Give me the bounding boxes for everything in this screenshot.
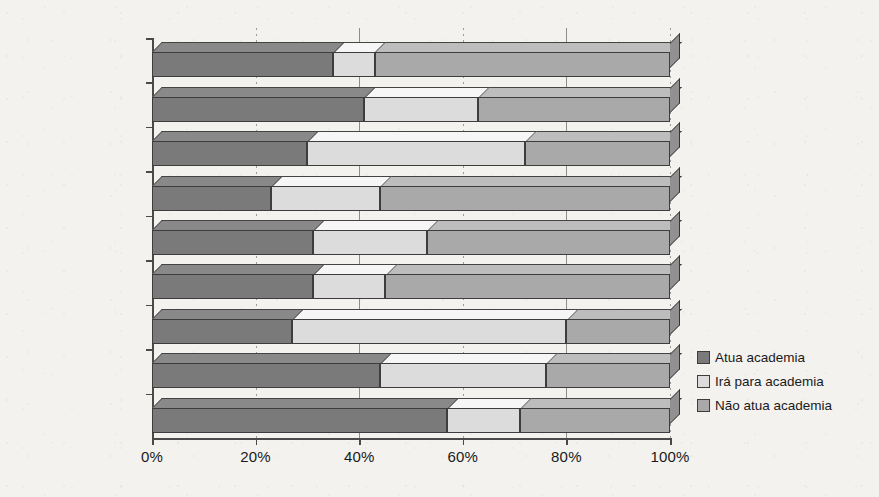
y-axis-tick xyxy=(146,394,153,396)
plot-area: AdministraçãoAgronomiaBioquímicaClínica … xyxy=(152,38,670,438)
bar-segment-top-face xyxy=(152,220,325,230)
bar-segment[interactable] xyxy=(364,97,478,122)
bar-segment-side-face xyxy=(670,122,680,157)
bar-segment-top-face xyxy=(427,220,682,230)
bar-segment[interactable] xyxy=(152,408,447,433)
x-axis-tick xyxy=(566,438,568,445)
bar-segment[interactable] xyxy=(152,141,307,166)
y-axis-tick xyxy=(146,171,153,173)
legend-item[interactable]: Não atua academia xyxy=(697,398,832,413)
legend-label: Irá para academia xyxy=(715,374,824,389)
bar-segment-top-face xyxy=(152,309,304,319)
bar-segment-top-face xyxy=(271,176,392,186)
legend-swatch xyxy=(697,375,710,388)
bar-segment[interactable] xyxy=(152,319,292,344)
bar-segment[interactable] xyxy=(152,274,313,299)
bar-segment-top-face xyxy=(380,176,682,186)
bar-segment-side-face xyxy=(670,78,680,113)
bar-segment-top-face xyxy=(447,398,532,408)
x-axis-tick xyxy=(152,438,154,445)
bar-segment-top-face xyxy=(364,87,490,97)
y-axis-tick xyxy=(146,349,153,351)
bar-segment-side-face xyxy=(670,33,680,68)
x-axis-tick xyxy=(359,438,361,445)
bar-segment-side-face xyxy=(670,344,680,379)
bar-segment-top-face xyxy=(292,309,579,319)
bar-segment-top-face xyxy=(152,398,459,408)
bar-segment[interactable] xyxy=(292,319,567,344)
bar-segment[interactable] xyxy=(520,408,670,433)
x-axis-label: 60% xyxy=(447,448,478,465)
legend-item[interactable]: Atua academia xyxy=(697,350,832,365)
x-axis-label: 0% xyxy=(141,448,163,465)
x-axis-label: 80% xyxy=(551,448,582,465)
bar-segment[interactable] xyxy=(307,141,525,166)
bar-segment-top-face xyxy=(152,353,392,363)
bar-segment-top-face xyxy=(152,264,325,274)
legend-label: Não atua academia xyxy=(715,398,832,413)
bar-segment[interactable] xyxy=(566,319,670,344)
stacked-bar-chart: AdministraçãoAgronomiaBioquímicaClínica … xyxy=(0,0,879,497)
bar-segment[interactable] xyxy=(380,363,546,388)
bar-segment[interactable] xyxy=(380,186,670,211)
bar-segment-side-face xyxy=(670,167,680,202)
legend-label: Atua academia xyxy=(715,350,805,365)
bar-segment[interactable] xyxy=(375,52,670,77)
bar-segment-top-face xyxy=(380,353,558,363)
bar-segment-top-face xyxy=(566,309,682,319)
bar-segment[interactable] xyxy=(427,230,670,255)
bar-segment-top-face xyxy=(525,131,682,141)
bar-segment-side-face xyxy=(670,211,680,246)
bar-segment-top-face xyxy=(375,42,682,52)
y-axis-tick xyxy=(146,305,153,307)
x-axis-label: 40% xyxy=(344,448,375,465)
bar-segment[interactable] xyxy=(152,52,333,77)
legend: Atua academiaIrá para academiaNão atua a… xyxy=(697,350,832,422)
bar-segment-top-face xyxy=(152,176,283,186)
bar-segment[interactable] xyxy=(152,363,380,388)
x-axis-label: 20% xyxy=(240,448,271,465)
bar-segment[interactable] xyxy=(333,52,374,77)
y-axis-tick xyxy=(146,127,153,129)
bar-segment-top-face xyxy=(520,398,682,408)
bar-segment-side-face xyxy=(670,255,680,290)
bar-segment-top-face xyxy=(152,87,376,97)
x-axis-line xyxy=(152,438,670,440)
bar-segment-top-face xyxy=(307,131,537,141)
bar-segment-top-face xyxy=(313,220,439,230)
bar-segment[interactable] xyxy=(271,186,380,211)
bar-segment-top-face xyxy=(546,353,682,363)
bar-segment[interactable] xyxy=(152,97,364,122)
y-axis-tick xyxy=(146,82,153,84)
bar-segment[interactable] xyxy=(525,141,670,166)
legend-swatch xyxy=(697,351,710,364)
bar-segment[interactable] xyxy=(447,408,520,433)
bar-segment-top-face xyxy=(385,264,682,274)
bar-segment-top-face xyxy=(478,87,682,97)
legend-item[interactable]: Irá para academia xyxy=(697,374,832,389)
y-axis-tick xyxy=(146,260,153,262)
y-axis-tick xyxy=(146,216,153,218)
x-axis-tick xyxy=(256,438,258,445)
bar-segment[interactable] xyxy=(478,97,670,122)
bar-segment[interactable] xyxy=(385,274,670,299)
bar-segment[interactable] xyxy=(313,274,386,299)
bar-segment[interactable] xyxy=(313,230,427,255)
x-axis-label: 100% xyxy=(650,448,689,465)
bar-segment-side-face xyxy=(670,300,680,335)
x-axis-tick xyxy=(463,438,465,445)
bar-segment-top-face xyxy=(313,264,398,274)
bar-segment[interactable] xyxy=(152,186,271,211)
legend-swatch xyxy=(697,399,710,412)
bar-segment[interactable] xyxy=(152,230,313,255)
bar-segment-top-face xyxy=(152,42,345,52)
bar-segment[interactable] xyxy=(546,363,670,388)
y-axis-tick xyxy=(146,38,153,40)
bar-segment-side-face xyxy=(670,389,680,424)
x-axis-tick xyxy=(670,438,672,445)
bar-segment-top-face xyxy=(152,131,319,141)
